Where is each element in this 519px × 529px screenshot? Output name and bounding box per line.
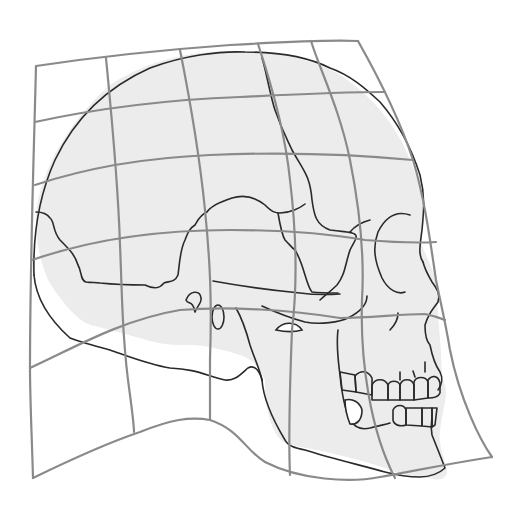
skull-grid-figure: Human skull in lateral view overlaid on … [0, 0, 519, 529]
skull-silhouette [36, 51, 447, 480]
figure-canvas [0, 0, 519, 529]
grid-col-1 [30, 66, 36, 478]
